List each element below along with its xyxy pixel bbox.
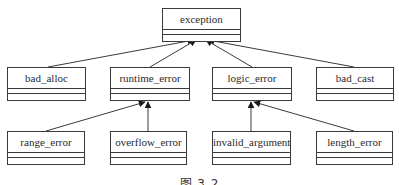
- operations-compartment: [111, 94, 189, 100]
- class-name: invalid_argument: [213, 132, 290, 153]
- operations-compartment: [163, 35, 240, 41]
- class-name: length_error: [317, 132, 392, 153]
- operations-compartment: [213, 94, 291, 100]
- operations-compartment: [317, 158, 392, 164]
- class-exception: exception: [162, 8, 241, 42]
- class-name: range_error: [8, 132, 84, 153]
- class-logic_error: logic_error: [212, 67, 292, 101]
- operations-compartment: [213, 158, 290, 164]
- class-range_error: range_error: [7, 131, 85, 165]
- class-name: exception: [163, 9, 240, 30]
- class-name: runtime_error: [111, 68, 189, 89]
- class-name: bad_cast: [317, 68, 393, 89]
- class-overflow_error: overflow_error: [110, 131, 187, 165]
- edge-range_error-runtime_error: [46, 102, 145, 131]
- figure-caption: 图 3.2: [0, 174, 399, 185]
- class-invalid_argument: invalid_argument: [212, 131, 291, 165]
- class-name: overflow_error: [111, 132, 186, 153]
- class-runtime_error: runtime_error: [110, 67, 190, 101]
- class-name: logic_error: [213, 68, 291, 89]
- edge-length_error-logic_error: [254, 102, 354, 131]
- class-name: bad_alloc: [8, 68, 85, 89]
- class-bad_cast: bad_cast: [316, 67, 394, 101]
- operations-compartment: [317, 94, 393, 100]
- operations-compartment: [8, 158, 84, 164]
- class-bad_alloc: bad_alloc: [7, 67, 86, 101]
- operations-compartment: [111, 158, 186, 164]
- class-length_error: length_error: [316, 131, 393, 165]
- operations-compartment: [8, 94, 85, 100]
